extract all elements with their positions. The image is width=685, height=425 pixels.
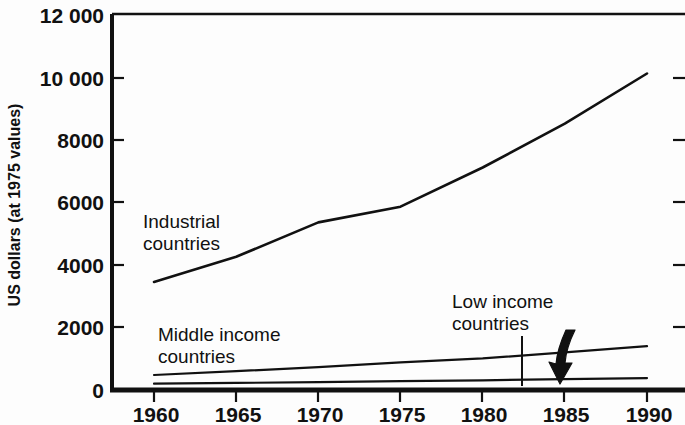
y-tick-label-8000: 8000 <box>57 129 104 152</box>
series-label-industrial-line1: Industrial <box>143 211 220 232</box>
y-tick-label-2000: 2000 <box>57 316 104 339</box>
series-label-industrial-line2: countries <box>143 233 220 254</box>
series-label-middle-income-line2: countries <box>158 346 235 367</box>
x-tick-label-1980: 1980 <box>461 403 508 425</box>
x-tick-label-1990: 1990 <box>626 403 673 425</box>
y-tick-label-12000: 12 000 <box>40 4 104 27</box>
series-label-low-income-line1: Low income <box>452 291 553 312</box>
chart-figure: 12 000 10 000 8000 6000 4000 2000 0 US d… <box>0 0 685 425</box>
x-tick-label-1970: 1970 <box>297 403 344 425</box>
x-tick-label-1965: 1965 <box>215 403 262 425</box>
line-chart-canvas: 12 000 10 000 8000 6000 4000 2000 0 US d… <box>0 0 685 425</box>
y-tick-label-6000: 6000 <box>57 191 104 214</box>
x-tick-label-1985: 1985 <box>543 403 590 425</box>
x-tick-label-1975: 1975 <box>379 403 426 425</box>
series-label-low-income-line2: countries <box>452 313 529 334</box>
y-tick-label-0: 0 <box>92 379 104 402</box>
y-axis-title: US dollars (at 1975 values) <box>6 104 23 307</box>
y-tick-label-4000: 4000 <box>57 254 104 277</box>
y-tick-label-10000: 10 000 <box>40 67 104 90</box>
series-label-middle-income-line1: Middle income <box>158 324 281 345</box>
x-tick-label-1960: 1960 <box>133 403 180 425</box>
